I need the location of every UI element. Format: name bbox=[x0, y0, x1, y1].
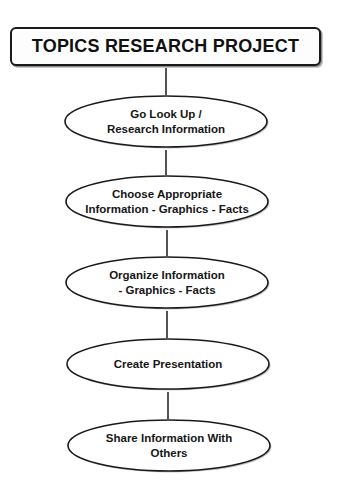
step-3-ellipse: Organize Information - Graphics - Facts bbox=[63, 254, 271, 311]
step-4-ellipse: Create Presentation bbox=[64, 336, 272, 392]
diagram-title: TOPICS RESEARCH PROJECT bbox=[32, 36, 299, 57]
step-1-label: Go Look Up / Research Information bbox=[89, 107, 243, 137]
step-3-label: Organize Information - Graphics - Facts bbox=[91, 268, 243, 298]
step-4-label: Create Presentation bbox=[96, 357, 241, 372]
title-box: TOPICS RESEARCH PROJECT bbox=[10, 27, 321, 66]
step-2-ellipse: Choose Appropriate Information - Graphic… bbox=[63, 173, 271, 230]
step-1-ellipse: Go Look Up / Research Information bbox=[62, 93, 270, 150]
step-2-label: Choose Appropriate Information - Graphic… bbox=[67, 187, 267, 217]
step-5-ellipse: Share Information With Others bbox=[65, 417, 273, 474]
flowchart-canvas: TOPICS RESEARCH PROJECT Go Look Up / Res… bbox=[0, 0, 340, 497]
step-5-label: Share Information With Others bbox=[88, 431, 250, 461]
